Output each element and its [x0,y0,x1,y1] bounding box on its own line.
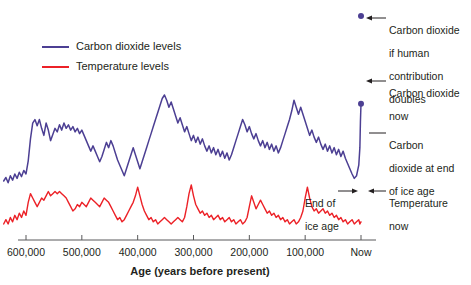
annotation-line: now [389,111,460,123]
co2-line [4,95,361,183]
annotation-temperature-now: Temperature now [389,186,448,244]
annotation-line: ice age [305,221,339,233]
x-tick-label: 400,000 [119,246,157,258]
co2-now-marker [358,101,364,107]
chart-figure: Carbon dioxide levels Temperature levels… [0,0,471,285]
x-tick-label: 100,000 [286,246,324,258]
annotation-line: Temperature [389,198,448,210]
annotation-line: if human [389,48,460,60]
x-axis-title: Age (years before present) [0,265,400,277]
annotation-line: now [389,221,448,233]
annotation-co2-now: Carbon dioxide now [389,76,460,134]
leader-temperature-now [368,188,386,193]
legend-swatch-co2-icon [42,46,69,48]
legend-label-temperature: Temperature levels [76,60,169,73]
leader-end-of-ice-age [338,188,358,193]
legend-item-co2: Carbon dioxide levels [42,38,242,55]
x-tick-label: 300,000 [175,246,213,258]
annotation-line: Carbon [389,140,454,152]
annotation-end-of-ice-age: End of ice age [305,186,339,244]
annotation-line: Carbon dioxide [389,88,460,100]
leader-co2-now [366,78,386,83]
x-tick-label: Now [350,246,371,258]
legend-item-temperature: Temperature levels [42,58,242,75]
annotation-line: dioxide at end [389,163,454,175]
x-tick-label: 500,000 [63,246,101,258]
annotation-line: End of [305,198,339,210]
annotation-line: Carbon dioxide [389,25,460,37]
leader-co2-doubled [366,15,386,20]
legend-label-co2: Carbon dioxide levels [76,40,181,53]
x-tick-label: 200,000 [230,246,268,258]
chart-legend: Carbon dioxide levels Temperature levels [42,38,242,78]
x-tick-label: 600,000 [7,246,45,258]
legend-swatch-temperature-icon [42,66,69,68]
co2-doubled-marker [358,13,364,19]
